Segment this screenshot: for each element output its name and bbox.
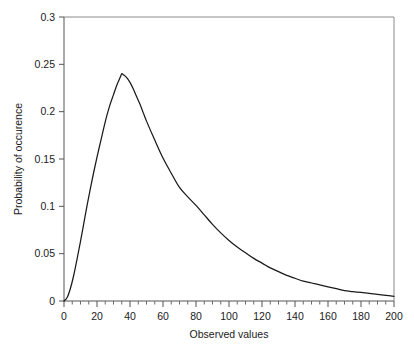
- y-tick-label: 0.15: [35, 153, 56, 165]
- y-tick-label: 0.3: [40, 11, 55, 23]
- x-tick-label: 60: [157, 310, 169, 322]
- y-tick-label: 0.25: [35, 58, 56, 70]
- x-tick-label: 140: [286, 310, 304, 322]
- x-tick-label: 160: [319, 310, 337, 322]
- probability-distribution-chart: 020406080100120140160180200 00.050.10.15…: [0, 0, 414, 344]
- y-axis-title: Probability of occurence: [12, 103, 24, 215]
- x-tick-label: 120: [253, 310, 271, 322]
- chart-figure: 020406080100120140160180200 00.050.10.15…: [0, 0, 414, 344]
- y-tick-label: 0.05: [35, 247, 56, 259]
- x-tick-label: 100: [220, 310, 238, 322]
- y-tick-label: 0.2: [40, 105, 55, 117]
- x-axis-title: Observed values: [190, 328, 269, 340]
- y-tick-label: 0.1: [40, 200, 55, 212]
- y-tick-label: 0: [49, 295, 55, 307]
- x-tick-label: 0: [61, 310, 67, 322]
- x-tick-label: 80: [190, 310, 202, 322]
- chart-background: [0, 0, 414, 344]
- x-tick-label: 200: [385, 310, 403, 322]
- x-tick-label: 40: [124, 310, 136, 322]
- x-tick-label: 20: [91, 310, 103, 322]
- x-tick-label: 180: [352, 310, 370, 322]
